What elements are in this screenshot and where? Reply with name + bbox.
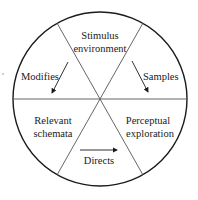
modifies-label: Modifies bbox=[21, 71, 59, 82]
sector-bottom-right-line2: exploration bbox=[126, 128, 175, 139]
samples-label: Samples bbox=[143, 71, 179, 82]
sector-top-line1: Stimulus bbox=[81, 30, 118, 41]
sector-bottom-left-line1: Relevant bbox=[34, 115, 71, 126]
sector-bottom-right-line1: Perceptual bbox=[126, 115, 170, 126]
sector-top-line2: environment bbox=[73, 43, 126, 54]
stray-dot bbox=[2, 73, 3, 74]
directs-label: Directs bbox=[84, 155, 114, 166]
perceptual-cycle-diagram: Stimulus environment Relevant schemata P… bbox=[0, 0, 198, 200]
sector-bottom-left-line2: schemata bbox=[33, 128, 72, 139]
